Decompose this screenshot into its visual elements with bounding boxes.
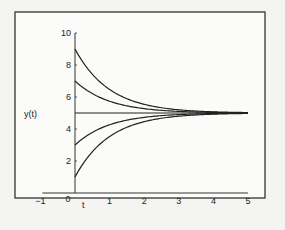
- x-axis-label: t: [82, 200, 85, 210]
- y-tick-label: 2: [66, 156, 71, 166]
- x-tick-label: −1: [35, 196, 45, 206]
- x-tick-label: 3: [176, 196, 181, 206]
- origin-label: 0: [65, 194, 70, 204]
- y-tick-label: 6: [66, 92, 71, 102]
- y-axis-label: y(t): [24, 109, 37, 119]
- plot-frame: [15, 12, 265, 198]
- y-tick-label: 4: [66, 124, 71, 134]
- y-tick-label: 8: [66, 60, 71, 70]
- x-tick-label: 4: [211, 196, 216, 206]
- y-tick-label: 10: [61, 28, 71, 38]
- chart: −1123450246810 t y(t): [0, 0, 285, 230]
- x-tick-label: 1: [107, 196, 112, 206]
- x-tick-label: 5: [245, 196, 250, 206]
- x-tick-label: 2: [142, 196, 147, 206]
